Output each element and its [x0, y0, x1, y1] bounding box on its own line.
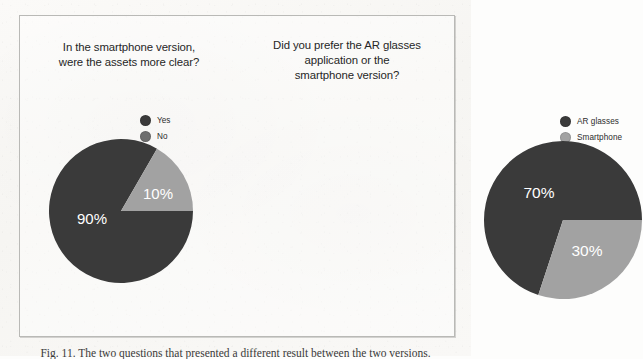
legend-swatch-yes [140, 115, 151, 126]
chart-title-left-line-2: were the assets more clear? [28, 55, 230, 70]
chart-title-right-line-3: smartphone version? [246, 68, 448, 83]
chart-panel-ar-glasses-vs-smartphone-preference: Did you prefer the AR glasses applicatio… [238, 16, 456, 336]
legend-label-yes: Yes [157, 116, 171, 125]
figure-frame: In the smartphone version, were the asse… [19, 15, 455, 337]
legend-right: AR glasses Smartphone [560, 116, 622, 143]
chart-panel-smartphone-assets-clarity: In the smartphone version, were the asse… [20, 16, 238, 336]
chart-title-right: Did you prefer the AR glasses applicatio… [246, 38, 448, 84]
legend-label-ar-glasses: AR glasses [577, 117, 619, 126]
pie-value-label-yes: 90% [77, 210, 107, 227]
pie-value-label-ar-glasses: 70% [523, 184, 554, 201]
chart-title-right-line-2: application or the [246, 53, 448, 68]
pie-chart-smartphone-assets-clarity: 90% 10% [48, 138, 194, 284]
figure-caption: Fig. 11. The two questions that presente… [0, 347, 471, 359]
legend-swatch-ar-glasses [560, 116, 571, 127]
pie-value-label-no: 10% [143, 185, 173, 202]
chart-title-right-line-1: Did you prefer the AR glasses [246, 38, 448, 53]
pie-value-label-smartphone: 30% [571, 242, 602, 259]
legend-item-yes[interactable]: Yes [140, 115, 171, 126]
chart-title-left-line-1: In the smartphone version, [28, 40, 230, 55]
legend-item-ar-glasses[interactable]: AR glasses [560, 116, 622, 127]
pie-chart-ar-glasses-vs-smartphone-preference: 70% 30% [483, 140, 643, 300]
chart-title-left: In the smartphone version, were the asse… [28, 40, 230, 70]
